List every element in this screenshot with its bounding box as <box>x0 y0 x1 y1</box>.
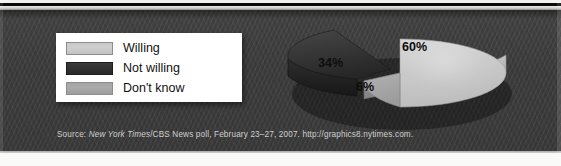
legend-item-willing: Willing <box>66 39 236 58</box>
pie-label-dontknow: 6% <box>356 80 374 94</box>
source-publication: New York Times <box>89 130 150 139</box>
scan-edge-left <box>0 0 3 166</box>
legend-label-dont-know: Don't know <box>123 82 184 95</box>
pie-label-willing: 60% <box>402 40 427 54</box>
legend-label-not-willing: Not willing <box>123 62 180 75</box>
poll-figure: 60% 34% 6% Willing Not willing Don't kno… <box>0 0 561 166</box>
pie-chart-svg <box>286 18 518 130</box>
legend-swatch-icon-willing <box>66 42 113 55</box>
source-note: Source: New York Times/CBS News poll, Fe… <box>57 130 413 139</box>
source-prefix: Source: <box>57 130 89 139</box>
legend-swatch-icon-dont-know <box>66 82 113 95</box>
pie-label-notwilling: 34% <box>318 56 343 70</box>
scan-edge-top-highlight <box>0 6 561 10</box>
scan-edge-right <box>557 0 561 166</box>
legend-item-dont-know: Don't know <box>66 79 236 98</box>
legend-label-willing: Willing <box>123 42 160 55</box>
legend-rows: Willing Not willing Don't know <box>66 39 236 99</box>
pie-chart <box>286 18 518 130</box>
source-rest: /CBS News poll, February 23–27, 2007. ht… <box>150 130 413 139</box>
legend-swatch-icon-not-willing <box>66 62 113 75</box>
scan-edge-bottom-white <box>0 153 561 166</box>
legend-item-not-willing: Not willing <box>66 59 236 78</box>
chart-legend: Willing Not willing Don't know <box>56 33 242 102</box>
